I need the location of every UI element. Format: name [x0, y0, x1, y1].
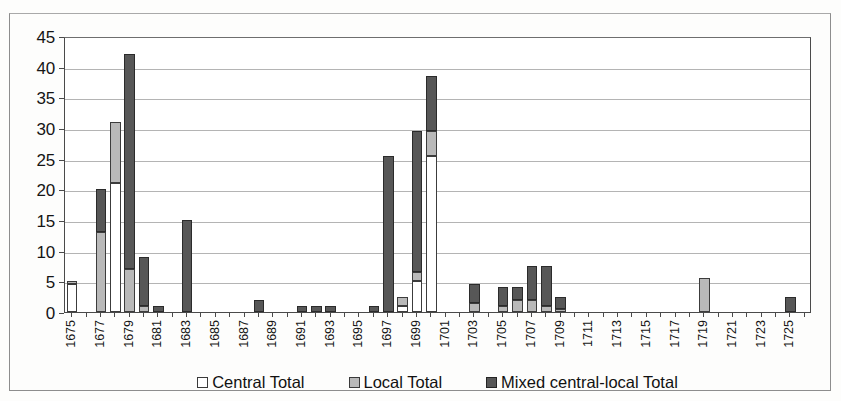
- bar-segment[interactable]: [498, 306, 509, 312]
- bar-segment[interactable]: [96, 189, 107, 232]
- x-axis: 1675167716791681168316851687168916911693…: [64, 313, 811, 375]
- bar-segment[interactable]: [469, 303, 480, 312]
- y-tick-label: 5: [46, 274, 55, 291]
- x-tick-label: 1721: [726, 320, 739, 348]
- bar-group[interactable]: [785, 38, 796, 312]
- x-tick-label: 1675: [65, 320, 78, 348]
- bar-group[interactable]: [110, 38, 121, 312]
- bar-segment[interactable]: [110, 183, 121, 312]
- legend-label: Mixed central-local Total: [501, 374, 678, 391]
- x-tick-mark: [617, 313, 618, 317]
- bar-segment[interactable]: [153, 306, 164, 312]
- bar-segment[interactable]: [426, 156, 437, 312]
- bar-segment[interactable]: [512, 300, 523, 312]
- bar-group[interactable]: [182, 38, 193, 312]
- y-tick-label: 15: [36, 213, 55, 230]
- bar-group[interactable]: [498, 38, 509, 312]
- bar-group[interactable]: [325, 38, 336, 312]
- x-tick-label: 1691: [295, 320, 308, 348]
- x-tick-mark: [545, 313, 546, 317]
- bar-segment[interactable]: [512, 287, 523, 299]
- x-tick-label: 1705: [496, 320, 509, 348]
- bar-segment[interactable]: [139, 306, 150, 312]
- bar-segment[interactable]: [541, 306, 552, 312]
- bar-stack: [311, 306, 322, 312]
- bar-segment[interactable]: [124, 269, 135, 312]
- bar-group[interactable]: [153, 38, 164, 312]
- bar-segment[interactable]: [555, 297, 566, 309]
- bar-segment[interactable]: [412, 272, 423, 281]
- bar-group[interactable]: [311, 38, 322, 312]
- bar-segment[interactable]: [469, 284, 480, 302]
- x-tick-mark: [588, 313, 589, 317]
- bar-segment[interactable]: [182, 220, 193, 312]
- x-tick-label: 1685: [209, 320, 222, 348]
- bar-segment[interactable]: [397, 306, 408, 312]
- bar-segment[interactable]: [254, 300, 265, 312]
- x-tick-mark: [215, 313, 216, 317]
- bar-group[interactable]: [96, 38, 107, 312]
- bar-group[interactable]: [555, 38, 566, 312]
- bar-segment[interactable]: [124, 54, 135, 269]
- bar-group[interactable]: [297, 38, 308, 312]
- x-tick-mark: [502, 313, 503, 317]
- bar-segment[interactable]: [527, 266, 538, 300]
- bar-group[interactable]: [383, 38, 394, 312]
- x-tick-mark: [703, 313, 704, 317]
- bar-group[interactable]: [67, 38, 78, 312]
- bar-group[interactable]: [139, 38, 150, 312]
- bar-group[interactable]: [541, 38, 552, 312]
- bar-group[interactable]: [469, 38, 480, 312]
- bar-group[interactable]: [254, 38, 265, 312]
- bar-group[interactable]: [527, 38, 538, 312]
- bar-segment[interactable]: [397, 297, 408, 306]
- bar-segment[interactable]: [110, 122, 121, 183]
- x-tick-label: 1709: [554, 320, 567, 348]
- bar-segment[interactable]: [699, 278, 710, 312]
- bar-segment[interactable]: [426, 131, 437, 156]
- bar-group[interactable]: [512, 38, 523, 312]
- bar-segment[interactable]: [498, 287, 509, 305]
- bar-stack: [139, 257, 150, 312]
- x-tick-mark: [675, 313, 676, 317]
- bar-stack: [369, 306, 380, 312]
- x-tick-mark: [114, 313, 115, 317]
- bar-segment[interactable]: [369, 306, 380, 312]
- bar-segment[interactable]: [412, 131, 423, 272]
- x-tick-mark: [517, 313, 518, 317]
- bar-segment[interactable]: [785, 297, 796, 312]
- x-tick-label: 1715: [640, 320, 653, 348]
- bar-segment[interactable]: [96, 232, 107, 312]
- y-tick-label: 35: [36, 90, 55, 107]
- bar-segment[interactable]: [541, 266, 552, 306]
- bar-segment[interactable]: [139, 257, 150, 306]
- x-tick-mark: [272, 313, 273, 317]
- legend-item[interactable]: Mixed central-local Total: [486, 374, 678, 391]
- bar-segment[interactable]: [311, 306, 322, 312]
- x-tick-mark: [416, 313, 417, 317]
- bar-group[interactable]: [369, 38, 380, 312]
- bar-stack: [541, 266, 552, 312]
- legend-item[interactable]: Local Total: [349, 374, 443, 391]
- bar-group[interactable]: [124, 38, 135, 312]
- bar-stack: [254, 300, 265, 312]
- bar-segment[interactable]: [555, 309, 566, 312]
- bar-segment[interactable]: [297, 306, 308, 312]
- bar-group[interactable]: [412, 38, 423, 312]
- x-tick-mark: [387, 313, 388, 317]
- x-tick-mark: [430, 313, 431, 317]
- x-tick-mark: [86, 313, 87, 317]
- x-tick-label: 1695: [352, 320, 365, 348]
- bar-segment[interactable]: [412, 281, 423, 312]
- bar-segment[interactable]: [383, 156, 394, 312]
- x-tick-mark: [732, 313, 733, 317]
- bar-group[interactable]: [397, 38, 408, 312]
- bar-group[interactable]: [699, 38, 710, 312]
- bar-segment[interactable]: [325, 306, 336, 312]
- bar-group[interactable]: [426, 38, 437, 312]
- bar-segment[interactable]: [67, 284, 78, 312]
- legend-item[interactable]: Central Total: [197, 374, 304, 391]
- bar-segment[interactable]: [426, 76, 437, 131]
- bar-segment[interactable]: [527, 300, 538, 312]
- bar-segment[interactable]: [67, 281, 78, 284]
